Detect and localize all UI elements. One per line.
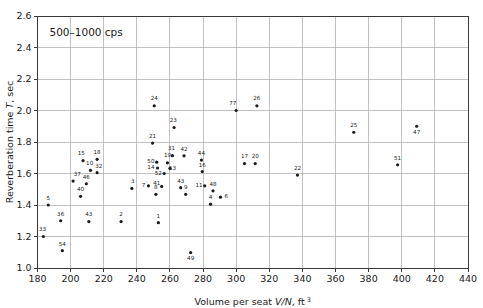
x-tick-labels: 1802002202402602803003203403603804004204… [28,273,477,284]
point-label: 25 [350,122,358,128]
point-label: 43 [177,178,185,184]
point-marker [87,220,90,223]
data-point: 3 [130,178,135,190]
point-label: 22 [294,165,301,171]
point-marker [179,186,182,189]
x-tick-label: 380 [360,273,378,284]
point-marker [71,179,74,182]
data-point: 46 [83,174,91,186]
point-marker [147,184,150,187]
point-marker [42,235,45,238]
point-marker [81,159,84,162]
point-marker [415,125,418,128]
point-marker [201,170,204,173]
data-point: 24 [151,95,159,107]
y-tick-label: 1.4 [16,199,31,210]
point-label: 3 [131,178,135,184]
point-marker [171,154,174,157]
data-point: 16 [199,162,207,174]
point-label: 33 [39,226,47,232]
data-point: 54 [59,241,67,253]
data-point: 22 [294,165,301,177]
point-label: 10 [86,160,94,166]
data-point: 23 [170,117,178,129]
point-label: 9 [184,184,188,190]
point-label: 49 [187,255,195,261]
y-tick-label: 2.0 [16,105,31,116]
y-axis-title: Reverberation time T, sec [4,81,15,204]
point-label: 13 [169,165,177,171]
point-label: 18 [94,149,102,155]
point-marker [184,193,187,196]
y-tick-label: 1.2 [16,231,31,242]
point-label: 77 [229,100,237,106]
point-label: 54 [59,241,67,247]
point-label: 2 [119,211,123,217]
data-point: 9 [184,184,188,196]
data-point: 44 [198,150,206,162]
point-label: 40 [77,186,85,192]
x-axis-title: Volume per seat V/N, ft 3 [195,296,311,308]
x-tick-label: 280 [194,273,212,284]
point-marker [157,221,160,224]
reverberation-time-scatter-figure: 1802002202402602803003203403603804004204… [0,0,483,308]
x-tick-label: 420 [426,273,444,284]
point-marker [189,251,192,254]
data-point: 52 [155,170,166,176]
point-label: 24 [151,95,159,101]
point-marker [160,185,163,188]
point-marker [130,187,133,190]
x-tick-label: 360 [326,273,344,284]
point-marker [151,142,154,145]
point-label: 41 [153,180,161,186]
point-label: 52 [155,170,162,176]
point-label: 42 [180,146,187,152]
data-point: 19 [164,152,172,164]
point-label: 47 [413,129,421,135]
y-tick-label: 2.4 [16,42,31,53]
point-label: 36 [57,211,65,217]
x-tick-label: 200 [62,273,80,284]
y-tick-label: 1.8 [16,136,31,147]
data-point: 13 [168,165,176,171]
point-label: 6 [224,193,228,199]
point-marker [47,203,50,206]
point-marker [255,104,258,107]
x-tick-label: 260 [161,273,179,284]
point-marker [96,171,99,174]
point-label: 37 [74,171,82,177]
point-label: 48 [209,181,217,187]
point-marker [79,195,82,198]
data-point: 21 [149,133,157,145]
point-marker [219,196,222,199]
x-tick-label: 220 [95,273,113,284]
point-marker [243,162,246,165]
point-label: 43 [85,211,93,217]
point-marker [59,219,62,222]
point-marker [154,193,157,196]
data-point: 18 [94,149,102,161]
point-marker [163,172,166,175]
y-tick-labels: 1.01.21.41.61.82.02.22.42.6 [16,10,31,273]
point-label: 20 [252,153,260,159]
point-label: 15 [78,150,86,156]
data-point: 1 [157,213,161,225]
data-point: 42 [180,146,187,158]
point-label: 17 [241,153,249,159]
data-point: 2 [119,211,123,223]
data-point: 43 [85,211,93,223]
tick-marks [34,16,468,272]
y-tick-label: 1.6 [16,168,31,179]
plot-annotation: 500–1000 cps [50,26,123,38]
point-marker [89,169,92,172]
point-marker [120,220,123,223]
data-point: 48 [209,181,217,192]
data-point: 11 [195,182,206,188]
point-marker [203,184,206,187]
point-marker [396,163,399,166]
point-label: 21 [149,133,157,139]
y-tick-label: 2.2 [16,73,31,84]
data-point: 26 [253,95,261,107]
data-point: 40 [77,186,85,198]
point-label: 23 [170,117,178,123]
